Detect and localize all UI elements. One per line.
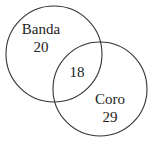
banda-label: Banda: [22, 21, 61, 37]
coro-label: Coro: [95, 91, 125, 107]
venn-diagram: Banda 20 18 Coro 29: [0, 0, 153, 146]
coro-only-count: 29: [103, 109, 118, 125]
banda-only-count: 20: [34, 39, 49, 55]
intersection-count: 18: [70, 64, 85, 80]
coro-circle: [53, 42, 147, 136]
